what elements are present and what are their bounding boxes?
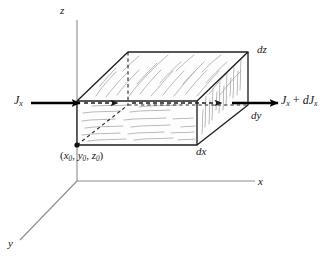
origin-vertex-dot xyxy=(74,142,79,147)
dimension-label-dy: dy xyxy=(251,110,261,121)
axis-label-y: y xyxy=(8,238,13,249)
axis-label-x: x xyxy=(258,176,263,187)
current-density-in-label: Jx xyxy=(14,94,23,108)
current-density-out-label: Jx + dJx xyxy=(281,94,317,108)
origin-coordinate-label: (x0, y0, z0) xyxy=(60,150,103,163)
axis-y-line xyxy=(20,181,77,240)
origin-paren-close: ) xyxy=(100,149,104,161)
figure-container: z x y Jx Jx + dJx dz dy dx (x0, y0, z0) xyxy=(0,0,325,258)
box-front-face xyxy=(77,101,197,145)
axis-label-z: z xyxy=(60,5,64,16)
dimension-label-dx: dx xyxy=(196,146,206,157)
volume-element-figure xyxy=(0,0,325,258)
djx-subscript: x xyxy=(314,99,318,108)
jx-out-plus-operator: + xyxy=(290,93,303,107)
dimension-label-dz: dz xyxy=(257,44,267,55)
djx-symbol: dJ xyxy=(303,93,314,107)
jx-in-subscript: x xyxy=(19,99,23,108)
